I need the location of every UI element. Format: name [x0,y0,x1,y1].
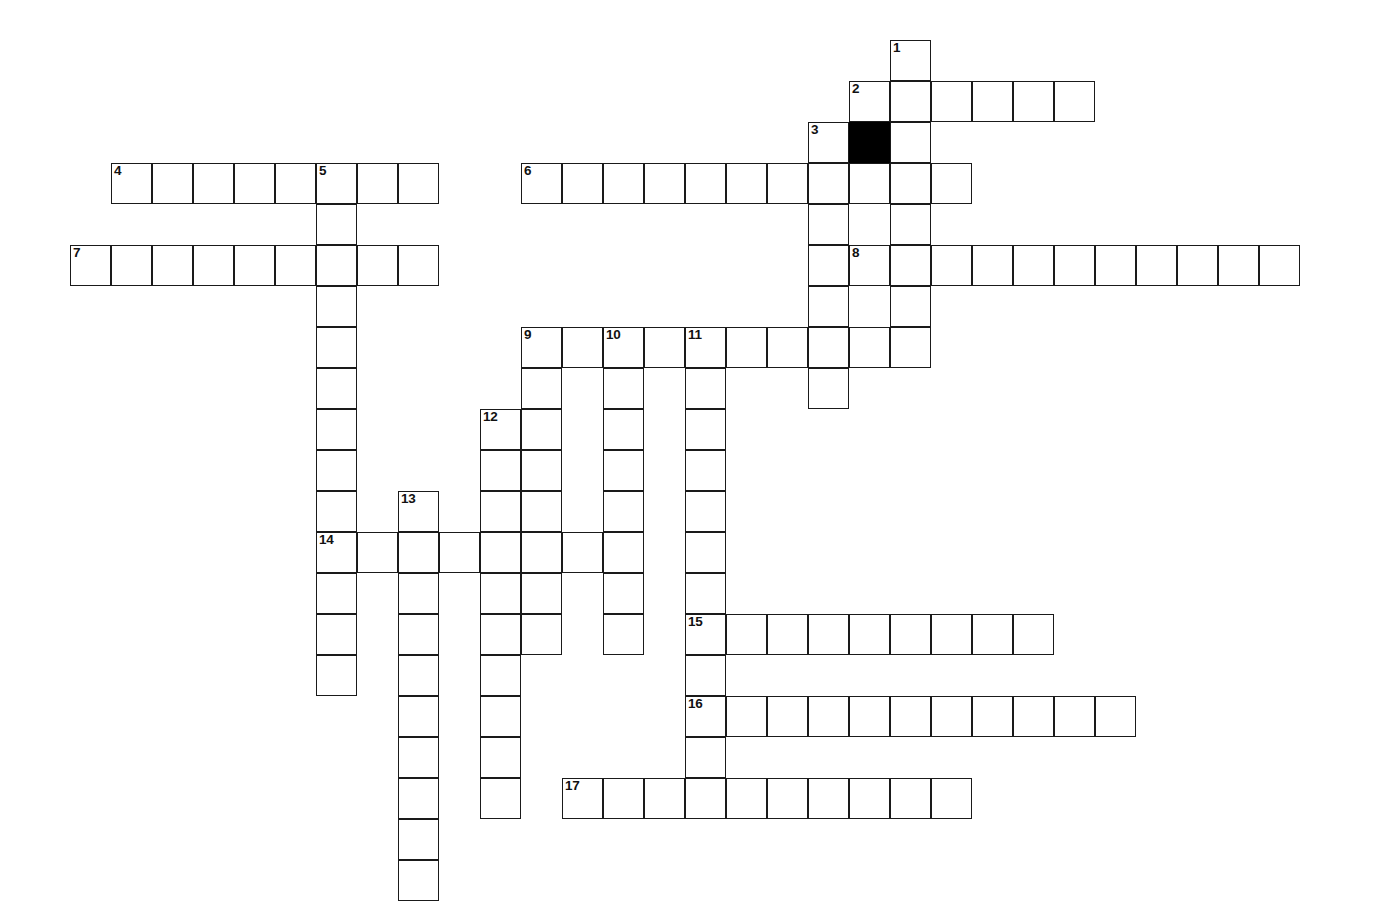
crossword-cell[interactable] [316,286,357,327]
crossword-cell[interactable] [685,737,726,778]
crossword-cell[interactable] [398,614,439,655]
crossword-cell[interactable] [767,696,808,737]
crossword-cell[interactable]: 16 [685,696,726,737]
crossword-cell[interactable]: 3 [808,122,849,163]
crossword-cell[interactable] [767,614,808,655]
crossword-cell[interactable] [808,286,849,327]
crossword-cell[interactable] [685,163,726,204]
crossword-cell[interactable] [849,163,890,204]
crossword-cell[interactable] [480,655,521,696]
crossword-cell[interactable]: 14 [316,532,357,573]
crossword-cell[interactable] [480,737,521,778]
crossword-cell[interactable] [685,491,726,532]
crossword-cell[interactable] [521,368,562,409]
crossword-cell[interactable] [521,573,562,614]
crossword-cell[interactable] [152,245,193,286]
crossword-cell[interactable] [603,368,644,409]
crossword-cell[interactable] [398,696,439,737]
crossword-cell[interactable] [726,614,767,655]
crossword-cell[interactable] [152,163,193,204]
crossword-cell[interactable] [972,81,1013,122]
crossword-cell[interactable]: 5 [316,163,357,204]
crossword-cell[interactable]: 8 [849,245,890,286]
crossword-cell[interactable] [890,245,931,286]
crossword-cell[interactable] [1054,81,1095,122]
crossword-cell[interactable] [193,163,234,204]
crossword-cell[interactable] [398,655,439,696]
crossword-cell[interactable] [849,327,890,368]
crossword-cell[interactable]: 12 [480,409,521,450]
crossword-cell[interactable] [931,614,972,655]
crossword-cell[interactable] [726,163,767,204]
crossword-cell[interactable] [808,163,849,204]
crossword-cell[interactable] [316,614,357,655]
crossword-cell[interactable] [808,204,849,245]
crossword-cell[interactable] [521,409,562,450]
crossword-cell[interactable] [1177,245,1218,286]
crossword-cell[interactable] [890,163,931,204]
crossword-cell[interactable] [1259,245,1300,286]
crossword-cell[interactable] [562,532,603,573]
crossword-cell[interactable] [398,532,439,573]
crossword-cell[interactable] [808,696,849,737]
crossword-cell[interactable] [562,163,603,204]
crossword-cell[interactable] [316,573,357,614]
crossword-cell[interactable] [234,163,275,204]
crossword-cell[interactable]: 9 [521,327,562,368]
crossword-cell[interactable] [685,409,726,450]
crossword-cell[interactable] [603,573,644,614]
crossword-cell[interactable] [685,573,726,614]
crossword-cell[interactable] [316,491,357,532]
crossword-cell[interactable] [480,491,521,532]
crossword-cell[interactable] [849,696,890,737]
crossword-cell[interactable] [480,450,521,491]
crossword-cell[interactable] [521,532,562,573]
crossword-cell[interactable] [644,327,685,368]
crossword-cell[interactable] [316,655,357,696]
crossword-cell[interactable] [603,778,644,819]
crossword-cell[interactable]: 17 [562,778,603,819]
crossword-cell[interactable] [398,819,439,860]
crossword-cell[interactable]: 4 [111,163,152,204]
crossword-cell[interactable] [316,245,357,286]
crossword-cell[interactable]: 11 [685,327,726,368]
crossword-cell[interactable] [562,327,603,368]
crossword-cell[interactable]: 6 [521,163,562,204]
crossword-cell[interactable] [1013,81,1054,122]
crossword-cell[interactable] [603,409,644,450]
crossword-cell[interactable]: 13 [398,491,439,532]
crossword-cell[interactable]: 10 [603,327,644,368]
crossword-cell[interactable] [767,163,808,204]
crossword-cell[interactable] [398,245,439,286]
crossword-cell[interactable] [398,573,439,614]
crossword-cell[interactable] [890,81,931,122]
crossword-cell[interactable] [808,614,849,655]
crossword-cell[interactable] [1054,696,1095,737]
crossword-cell[interactable] [603,532,644,573]
crossword-cell[interactable] [808,368,849,409]
crossword-cell[interactable] [111,245,152,286]
crossword-cell[interactable] [316,409,357,450]
crossword-cell[interactable] [767,327,808,368]
crossword-cell[interactable] [357,532,398,573]
crossword-cell[interactable] [890,204,931,245]
crossword-cell[interactable] [767,778,808,819]
crossword-cell[interactable] [890,286,931,327]
crossword-cell[interactable] [685,450,726,491]
crossword-cell[interactable] [603,614,644,655]
crossword-cell[interactable] [316,368,357,409]
crossword-cell[interactable] [972,245,1013,286]
crossword-grid[interactable]: 1234567891011121314151617 [0,0,1375,914]
crossword-cell[interactable] [890,122,931,163]
crossword-cell[interactable] [644,163,685,204]
crossword-cell[interactable] [890,614,931,655]
crossword-cell[interactable]: 2 [849,81,890,122]
crossword-cell[interactable] [726,778,767,819]
crossword-cell[interactable] [439,532,480,573]
crossword-cell[interactable] [1013,696,1054,737]
crossword-cell[interactable]: 7 [70,245,111,286]
crossword-cell[interactable] [357,163,398,204]
crossword-cell[interactable] [808,778,849,819]
crossword-cell[interactable] [357,245,398,286]
crossword-cell[interactable] [521,614,562,655]
